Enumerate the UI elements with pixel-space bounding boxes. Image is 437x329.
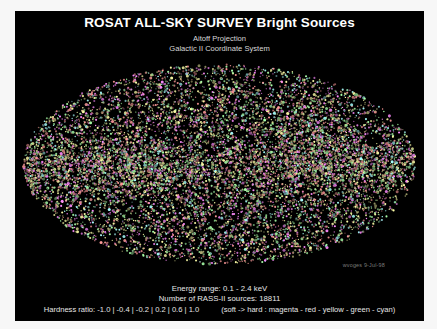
footer-source-count: Number of RASS-II sources: 18811 — [15, 294, 424, 305]
source-points — [22, 64, 416, 266]
footer-energy-range: Energy range: 0.1 - 2.4 keV — [15, 284, 424, 295]
subtitle-coordinate-system: Galactic II Coordinate System — [15, 44, 424, 54]
sky-map — [15, 58, 424, 271]
footer-hardness-legend: Hardness ratio: -1.0 | -0.4 | -0.2 | 0.2… — [15, 305, 424, 316]
panel-inner: ROSAT ALL-SKY SURVEY Bright Sources Aito… — [15, 11, 424, 321]
credit-stamp: wvoges 9-Jul-98 — [343, 262, 385, 269]
page-title: ROSAT ALL-SKY SURVEY Bright Sources — [15, 15, 424, 30]
subtitle-projection: Aitoff Projection — [15, 34, 424, 44]
footer-block: Energy range: 0.1 - 2.4 keV Number of RA… — [15, 284, 424, 316]
header-block: ROSAT ALL-SKY SURVEY Bright Sources Aito… — [15, 15, 424, 53]
figure-panel: ROSAT ALL-SKY SURVEY Bright Sources Aito… — [15, 11, 424, 321]
rosat-all-sky-survey-figure: ROSAT ALL-SKY SURVEY Bright Sources Aito… — [0, 0, 437, 329]
footer-hardness-ratio: Hardness ratio: -1.0 | -0.4 | -0.2 | 0.2… — [44, 305, 200, 314]
aitoff-scatter-plot — [15, 58, 424, 271]
footer-color-key: (soft -> hard : magenta - red - yellow -… — [221, 305, 395, 314]
